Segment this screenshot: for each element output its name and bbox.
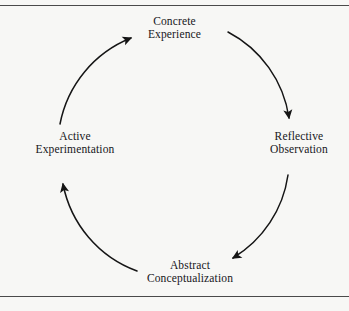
abstract-conceptualization-line-1: Abstract bbox=[110, 259, 270, 272]
concrete-experience-line-2: Experience bbox=[0, 28, 349, 41]
arc-reflective-to-abstract bbox=[233, 175, 288, 258]
arc-concrete-to-reflective bbox=[228, 32, 289, 118]
active-experimentation-line-2: Experimentation bbox=[2, 143, 148, 156]
node-label-active-experimentation: Active Experimentation bbox=[2, 130, 148, 157]
node-label-concrete-experience: Concrete Experience bbox=[0, 15, 349, 42]
concrete-experience-line-1: Concrete bbox=[0, 15, 349, 28]
active-experimentation-line-1: Active bbox=[2, 130, 148, 143]
arc-active-to-concrete bbox=[60, 38, 131, 124]
reflective-observation-line-2: Observation bbox=[249, 143, 349, 156]
reflective-observation-line-1: Reflective bbox=[249, 130, 349, 143]
abstract-conceptualization-line-2: Conceptualization bbox=[110, 272, 270, 285]
arc-abstract-to-active bbox=[63, 184, 137, 271]
node-label-abstract-conceptualization: Abstract Conceptualization bbox=[110, 259, 270, 286]
node-label-reflective-observation: Reflective Observation bbox=[249, 130, 349, 157]
experiential-learning-cycle-figure: Concrete Experience Reflective Observati… bbox=[0, 0, 349, 311]
